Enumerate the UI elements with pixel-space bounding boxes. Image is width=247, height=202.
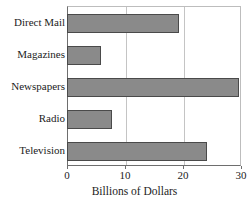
x-tick-mark-30 (241, 166, 242, 169)
bar-row (68, 78, 242, 97)
bar-row (68, 46, 242, 65)
bar-row (68, 110, 242, 129)
bar-chart: Direct MailMagazinesNewspapersRadioTelev… (0, 0, 247, 202)
category-label-direct-mail: Direct Mail (3, 16, 67, 28)
bar-magazines[interactable] (67, 46, 101, 65)
x-tick-mark-0 (67, 166, 68, 169)
x-tick-mark-20 (183, 166, 184, 169)
clipped-chart-title (60, 0, 230, 3)
bar-radio[interactable] (67, 110, 112, 129)
category-label-television: Television (3, 144, 67, 156)
x-tick-mark-10 (125, 166, 126, 169)
x-tick-label-20: 20 (168, 168, 198, 182)
category-label-magazines: Magazines (3, 48, 67, 60)
bar-row (68, 14, 242, 33)
bar-television[interactable] (67, 142, 207, 161)
bar-row (68, 142, 242, 161)
x-axis-title: Billions of Dollars (0, 184, 247, 198)
x-tick-label-10: 10 (110, 168, 140, 182)
x-tick-label-30: 30 (226, 168, 247, 182)
category-label-radio: Radio (3, 112, 67, 124)
x-tick-label-0: 0 (52, 168, 82, 182)
category-axis-labels: Direct MailMagazinesNewspapersRadioTelev… (0, 6, 67, 166)
x-axis-tick-labels: 0102030 (0, 168, 247, 184)
bar-direct-mail[interactable] (67, 14, 179, 33)
plot-area (67, 6, 241, 166)
category-label-newspapers: Newspapers (3, 80, 67, 92)
bar-newspapers[interactable] (67, 78, 239, 97)
